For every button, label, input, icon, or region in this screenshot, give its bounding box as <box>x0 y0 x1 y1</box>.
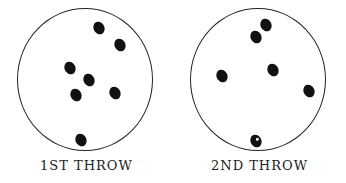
panel-label: 2ND THROW <box>173 158 346 173</box>
throw-circle <box>190 8 326 151</box>
panel-first-throw: 1ST THROW <box>0 0 173 183</box>
panel-second-throw: 2ND THROW <box>173 0 346 183</box>
panel-label: 1ST THROW <box>0 158 173 173</box>
